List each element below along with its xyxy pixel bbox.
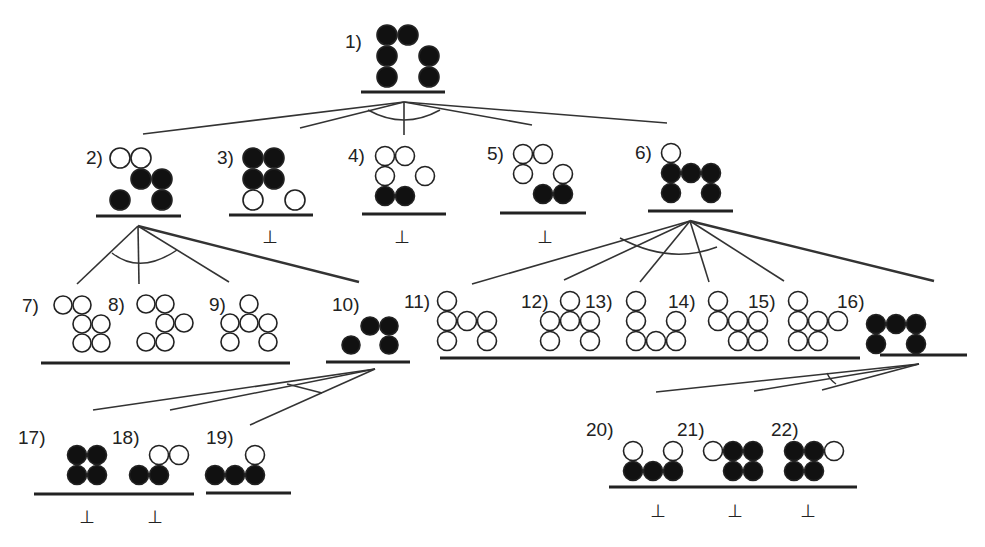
hollow-circle (667, 312, 686, 331)
filled-circle (68, 446, 87, 465)
hollow-circle (624, 442, 643, 461)
filled-circle (131, 169, 151, 189)
hollow-circle (92, 334, 110, 352)
filled-circle (744, 442, 763, 461)
filled-circle (243, 148, 263, 168)
node-label: 11) (404, 291, 430, 312)
dead-end-bottom-symbol: ⊥ (262, 226, 278, 247)
hollow-circle (829, 312, 848, 331)
hollow-circle (156, 333, 174, 351)
hollow-circle (709, 292, 728, 311)
hollow-circle (156, 295, 174, 313)
hollow-circle (137, 295, 155, 313)
hollow-circle (438, 312, 457, 331)
hollow-circle (662, 144, 681, 163)
hollow-circle (627, 312, 646, 331)
hollow-circle (809, 332, 828, 351)
node-2: 2) (86, 147, 172, 210)
filled-circle (68, 466, 87, 485)
filled-circle (682, 164, 701, 183)
hollow-circle (376, 147, 395, 166)
node-label: 17) (18, 427, 45, 448)
filled-circle (380, 317, 398, 335)
hollow-circle (376, 167, 395, 186)
node-4: 4)⊥ (348, 145, 435, 247)
hollow-circle (709, 312, 728, 331)
hollow-circle (514, 165, 533, 184)
edges-from-node-16 (656, 364, 919, 392)
filled-circle (152, 169, 172, 189)
filled-circle (246, 466, 265, 485)
filled-circle (724, 442, 743, 461)
filled-circle (805, 442, 824, 461)
hollow-circle (221, 314, 239, 332)
edges-layer (77, 102, 934, 425)
filled-circle (419, 46, 439, 66)
filled-circle (398, 25, 418, 45)
edge-2-to-8 (138, 226, 139, 284)
filled-circle (744, 462, 763, 481)
dead-end-bottom-symbol: ⊥ (727, 500, 743, 521)
hollow-circle (92, 315, 110, 333)
edge-2-to-7 (77, 226, 138, 284)
hollow-circle (749, 312, 768, 331)
node-label: 18) (112, 427, 139, 448)
filled-circle (377, 25, 397, 45)
edge-10-to-17 (93, 369, 375, 410)
node-label: 9) (209, 294, 226, 315)
hollow-circle (110, 148, 130, 168)
hollow-circle (285, 190, 305, 210)
node-3: 3)⊥ (217, 147, 305, 247)
hollow-circle (259, 314, 277, 332)
filled-circle (226, 466, 245, 485)
hollow-circle (647, 332, 666, 351)
search-tree-diagram: 1)2)3)⊥4)⊥5)⊥6)7)8)9)10)11)12)13)14)15)1… (0, 0, 985, 547)
dead-end-bottom-symbol: ⊥ (147, 506, 163, 527)
hollow-circle (396, 147, 415, 166)
hollow-circle (749, 332, 768, 351)
edges-from-node-10 (93, 369, 375, 425)
edges-from-node-2 (77, 226, 359, 284)
nodes-layer: 1)2)3)⊥4)⊥5)⊥6)7)8)9)10)11)12)13)14)15)1… (18, 25, 926, 527)
edges-from-node-1 (143, 102, 667, 135)
filled-circle (88, 466, 107, 485)
hollow-circle (438, 292, 457, 311)
node-6: 6) (635, 142, 721, 203)
node-label: 19) (206, 427, 233, 448)
node-label: 15) (748, 291, 775, 312)
filled-circle (702, 164, 721, 183)
node-label: 1) (345, 31, 362, 52)
hollow-circle (156, 314, 174, 332)
hollow-circle (478, 332, 497, 351)
node-label: 14) (668, 291, 695, 312)
hollow-circle (561, 292, 580, 311)
hollow-circle (667, 332, 686, 351)
hollow-circle (554, 165, 573, 184)
hollow-circle (240, 295, 258, 313)
filled-circle (867, 335, 886, 354)
hollow-circle (729, 332, 748, 351)
dead-end-bottom-symbol: ⊥ (650, 500, 666, 521)
filled-circle (662, 164, 681, 183)
node-1: 1) (345, 25, 439, 87)
dead-end-bottom-symbol: ⊥ (394, 226, 410, 247)
edge-2-to-9 (138, 226, 229, 282)
edge-16-to-20 (656, 364, 919, 392)
filled-circle (887, 315, 906, 334)
hollow-circle (175, 314, 193, 332)
filled-circle (554, 185, 573, 204)
hollow-circle (789, 312, 808, 331)
node-20: 20)⊥ (586, 419, 683, 521)
node-22: 22)⊥ (771, 419, 844, 521)
node-label: 10) (332, 294, 359, 315)
filled-circle (342, 336, 360, 354)
node-17: 17)⊥ (18, 427, 107, 527)
filled-circle (702, 184, 721, 203)
hollow-circle (534, 145, 553, 164)
filled-circle (907, 335, 926, 354)
hollow-circle (627, 292, 646, 311)
hollow-circle (541, 332, 560, 351)
hollow-circle (243, 190, 263, 210)
edge-1-to-5 (404, 102, 532, 125)
filled-circle (243, 169, 263, 189)
